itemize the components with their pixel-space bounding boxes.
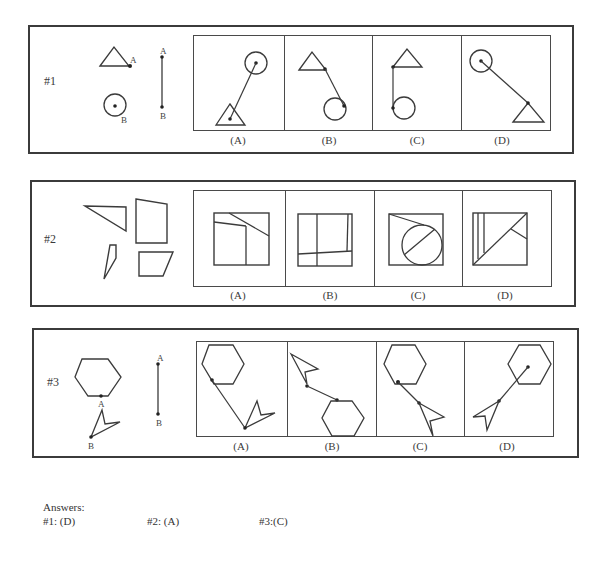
option-a-figure	[194, 36, 285, 132]
option-c-label: (C)	[400, 440, 440, 452]
question-3-options	[196, 341, 554, 437]
option-d-panel[interactable]	[463, 191, 553, 286]
answers-heading: Answers:	[43, 500, 288, 514]
answer-3: #3:(C)	[259, 514, 288, 528]
option-c-label: (C)	[398, 289, 438, 301]
option-d-figure	[463, 191, 553, 288]
option-c-figure	[375, 191, 463, 288]
answers-section: Answers: #1: (D)#2: (A)#3:(C)	[43, 500, 288, 528]
option-b-panel[interactable]	[288, 342, 377, 436]
option-c-figure	[373, 36, 462, 132]
question-2-options	[193, 190, 552, 287]
option-b-label: (B)	[309, 134, 349, 146]
option-a-label: (A)	[221, 440, 261, 452]
option-a-figure	[194, 191, 286, 288]
option-b-figure	[286, 191, 375, 288]
option-a-panel[interactable]	[194, 36, 285, 130]
option-a-label: (A)	[218, 289, 258, 301]
option-a-figure	[197, 342, 288, 438]
answer-1: #1: (D)	[43, 514, 147, 528]
option-b-label: (B)	[312, 440, 352, 452]
option-d-panel[interactable]	[462, 36, 552, 130]
question-2-label: #2	[44, 232, 56, 247]
option-c-panel[interactable]	[377, 342, 465, 436]
question-1-label: #1	[44, 74, 56, 89]
option-d-figure	[465, 342, 555, 438]
option-b-figure	[285, 36, 373, 132]
option-c-panel[interactable]	[373, 36, 462, 130]
option-a-panel[interactable]	[194, 191, 286, 286]
option-c-figure	[377, 342, 465, 438]
question-3-label: #3	[47, 375, 59, 390]
option-d-label: (D)	[482, 134, 522, 146]
question-1-options	[193, 35, 551, 131]
option-b-panel[interactable]	[286, 191, 375, 286]
option-b-figure	[288, 342, 377, 438]
answer-2: #2: (A)	[147, 514, 259, 528]
option-d-figure	[462, 36, 552, 132]
option-b-label: (B)	[310, 289, 350, 301]
option-a-panel[interactable]	[197, 342, 288, 436]
option-d-label: (D)	[487, 440, 527, 452]
option-c-label: (C)	[397, 134, 437, 146]
option-b-panel[interactable]	[285, 36, 373, 130]
option-d-panel[interactable]	[465, 342, 555, 436]
answers-row: #1: (D)#2: (A)#3:(C)	[43, 514, 288, 528]
option-a-label: (A)	[218, 134, 258, 146]
option-d-label: (D)	[485, 289, 525, 301]
option-c-panel[interactable]	[375, 191, 463, 286]
